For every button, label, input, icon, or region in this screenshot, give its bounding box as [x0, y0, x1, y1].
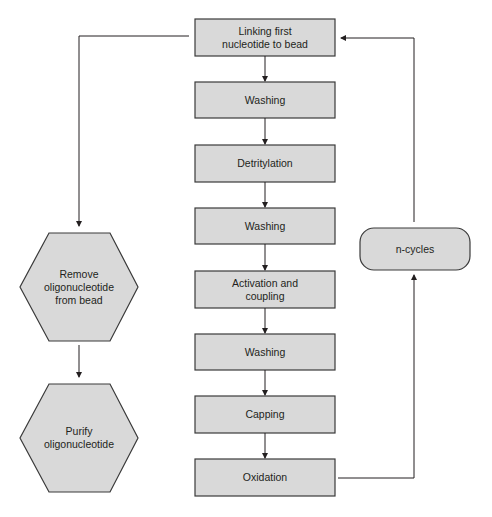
- step-label-wash1: Washing: [195, 82, 335, 118]
- arrow-ncycles-to-link: [341, 38, 414, 222]
- arrow-link-to-remove: [79, 36, 189, 226]
- purify-label: Purify oligonucleotide: [20, 384, 138, 492]
- remove-label: Remove oligonucleotide from bead: [20, 233, 138, 341]
- step-label-capping: Capping: [195, 396, 335, 433]
- step-label-link: Linking first nucleotide to bead: [195, 19, 335, 56]
- step-label-oxidation: Oxidation: [195, 459, 335, 496]
- step-label-activation: Activation and coupling: [195, 271, 335, 308]
- step-label-detritylation: Detritylation: [195, 145, 335, 182]
- step-label-wash2: Washing: [195, 208, 335, 244]
- n-cycles-label: n-cycles: [360, 228, 470, 270]
- step-label-wash3: Washing: [195, 334, 335, 370]
- arrow-oxidation-to-ncycles: [338, 275, 414, 478]
